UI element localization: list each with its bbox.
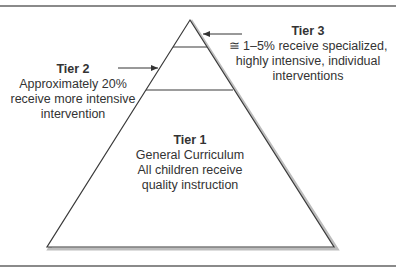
tier3-line: interventions [228, 69, 388, 84]
tier1-line: General Curriculum [120, 148, 260, 163]
tier1-line: quality instruction [120, 178, 260, 193]
tier2-line: intervention [8, 107, 138, 122]
tier3-line: ≅ 1–5% receive specialized, [228, 39, 388, 54]
tier3-line: highly intensive, individual [228, 54, 388, 69]
tier2-line: receive more intensive [8, 92, 138, 107]
tier2-title: Tier 2 [8, 62, 138, 77]
tier2-line: Approximately 20% [8, 77, 138, 92]
tier1-line: All children receive [120, 163, 260, 178]
tier1-title: Tier 1 [120, 133, 260, 148]
tier3-label: Tier 3 ≅ 1–5% receive specialized, highl… [228, 24, 388, 84]
tier2-label: Tier 2 Approximately 20% receive more in… [8, 62, 138, 122]
tier1-label: Tier 1 General Curriculum All children r… [120, 133, 260, 193]
tier3-title: Tier 3 [228, 24, 388, 39]
